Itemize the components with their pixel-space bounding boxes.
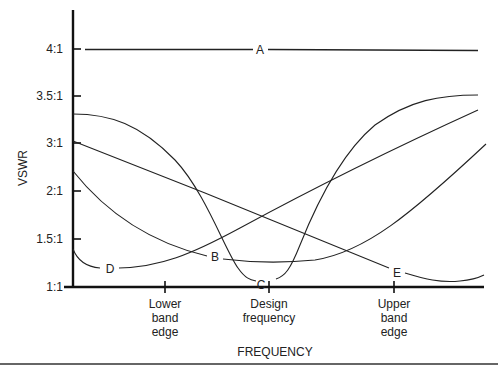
svg-text:Designfrequency: Designfrequency xyxy=(243,297,296,325)
svg-text:1.5:1: 1.5:1 xyxy=(36,232,63,246)
x-tick-labels: Lowerbandedge Designfrequency Upperbande… xyxy=(149,297,411,339)
y-axis-label: VSWR xyxy=(16,150,30,186)
curve-d: D xyxy=(73,110,478,276)
svg-text:4:1: 4:1 xyxy=(46,42,63,56)
svg-text:3:1: 3:1 xyxy=(46,136,63,150)
x-axis-label: FREQUENCY xyxy=(237,345,312,359)
svg-text:D: D xyxy=(106,262,115,276)
svg-text:2:1: 2:1 xyxy=(46,184,63,198)
svg-text:A: A xyxy=(256,43,264,57)
svg-text:C: C xyxy=(257,278,266,292)
svg-text:B: B xyxy=(211,250,219,264)
svg-text:3.5:1: 3.5:1 xyxy=(36,89,63,103)
y-tick-labels: 4:1 3.5:1 3:1 2:1 1.5:1 1:1 xyxy=(36,42,63,294)
svg-text:1:1: 1:1 xyxy=(46,280,63,294)
curve-b: B xyxy=(73,144,486,264)
svg-text:Upperbandedge: Upperbandedge xyxy=(378,297,411,339)
svg-text:Lowerbandedge: Lowerbandedge xyxy=(149,297,182,339)
curve-a: A xyxy=(85,43,478,57)
vswr-chart: VSWR 4:1 3.5:1 3:1 2:1 1.5:1 1:1 Lowerba… xyxy=(0,0,498,367)
svg-text:E: E xyxy=(393,266,401,280)
curve-e: E xyxy=(73,141,484,282)
